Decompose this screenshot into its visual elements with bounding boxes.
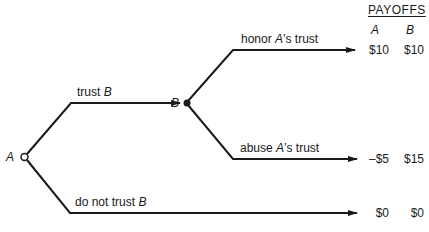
node-b-icon [184,100,191,107]
payoff-honor-b: $10 [390,43,424,57]
payoff-not-trust-a: $0 [355,206,389,220]
not-trust-label: do not trust B [75,195,146,209]
node-a-icon [21,154,28,161]
payoff-honor-a: $10 [355,43,389,57]
node-b-label: B [171,96,179,110]
node-a-label: A [6,150,14,164]
payoff-abuse-b: $15 [390,152,424,166]
column-a-header: A [363,23,387,37]
honor-label: honor A’s trust [241,32,318,46]
abuse-label: abuse A’s trust [240,141,319,155]
trust-label: trust B [77,85,112,99]
column-b-header: B [398,23,422,37]
payoff-not-trust-b: $0 [390,206,424,220]
trust-branch [27,103,180,154]
honor-branch [188,50,355,101]
payoffs-header: PAYOFFS [368,3,426,17]
payoff-abuse-a: –$5 [355,152,389,166]
